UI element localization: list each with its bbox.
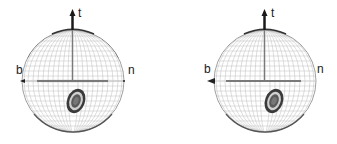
label-n-left: n: [128, 64, 135, 76]
binormal-arrowhead-right: [207, 78, 215, 84]
label-b-right: b: [204, 63, 211, 75]
label-t-right: t: [271, 7, 274, 19]
sphere-panel-right: t b n: [168, 0, 336, 144]
label-b-left: b: [16, 64, 23, 76]
label-t-left: t: [78, 7, 81, 19]
sphere-panel-left: t b n: [0, 0, 168, 144]
tangent-arrowhead-right: [262, 9, 268, 16]
unit-sphere-left: [0, 0, 168, 144]
unit-sphere-right: [168, 0, 336, 144]
label-n-right: n: [317, 63, 324, 75]
tangent-arrowhead-left: [70, 9, 76, 16]
